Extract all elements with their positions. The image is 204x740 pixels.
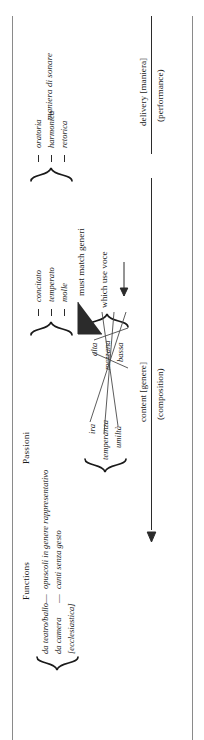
functions-row-0-separator: — [41,594,50,603]
maniera-dash-2 [64,155,65,162]
affetto-temperanza: temperanza [101,420,110,460]
affetti-brace [84,458,128,474]
functions-brace [36,656,80,674]
functions-row-1-right: canti senza gesto [54,530,63,589]
frame-rule-top [12,16,13,740]
heading-passioni: Passioni [22,432,31,464]
functions-row-0-left: da teatro/ballo [41,603,50,654]
maniera-oratoria: oratoria [34,119,43,148]
delivery-axis-sublabel: (performance) [156,69,165,122]
voce-mezzana: mezzana [103,340,112,370]
maniera-brace [30,166,74,182]
functions-row-2-left: [ecclesiastica] [67,603,76,654]
genere-concitato: concitato [34,270,43,302]
voce-alta: alta [90,343,99,356]
content-axis-label: content [genere] [139,362,148,422]
generi-elbow-connector [60,300,104,336]
maniera-dash-0 [38,155,39,162]
genere-dash-0 [38,309,39,316]
delivery-axis-label: delivery [maniera] [139,58,148,126]
heading-functions: Functions [22,562,31,600]
voce-arrow-icon [104,260,144,310]
delivery-axis-rule [151,16,152,154]
generi-caption: must match generi [77,228,86,296]
functions-row-1-separator: — [54,594,63,603]
maniera-label: maniera di sonare [45,53,54,120]
content-axis-rule [151,178,152,530]
genere-dash-1 [51,309,52,316]
content-axis-arrow-icon [143,522,161,544]
diagram-canvas: Functions da teatro/ballo — opuscoli in … [0,0,204,740]
maniera-retorica: retorica [60,121,69,148]
maniera-dash-1 [51,155,52,162]
functions-row-1-left: da camera [54,617,63,654]
functions-row-0-right: opuscoli in genere rappresentativo [41,470,50,589]
voce-bassa: bassa [116,342,125,362]
affetto-ira: ira [88,424,97,434]
affetto-umilta: umiltà [114,426,123,448]
genere-temperato: temperato [47,267,56,302]
frame-rule-bottom [192,16,193,740]
content-axis-sublabel: (composition) [156,368,165,420]
